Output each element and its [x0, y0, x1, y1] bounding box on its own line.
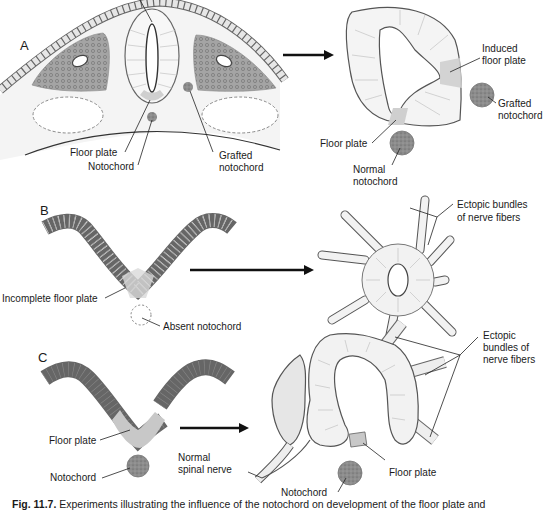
label-ectopic-b-1: Ectopic bundles	[457, 199, 528, 210]
panel-c-result: Normal spinal nerve Floor plate Notochor…	[178, 323, 535, 498]
neural-tube-c	[307, 334, 418, 447]
label-floor-plate-c: Floor plate	[49, 435, 97, 446]
label-induced-floor-plate-2: floor plate	[482, 55, 526, 66]
label-grafted-notochord-1: Grafted	[219, 150, 252, 161]
figure-caption: Fig. 11.7. Experiments illustrating the …	[12, 498, 542, 510]
notochord-c	[127, 455, 149, 477]
label-floor-plate: Floor plate	[70, 147, 118, 158]
label-induced-floor-plate-1: Induced	[482, 43, 518, 54]
label-ectopic-c-2: bundles of	[483, 342, 529, 353]
figure-number: Fig. 11.7.	[12, 498, 56, 510]
neural-canal	[146, 24, 158, 92]
right-coelom	[202, 97, 278, 133]
label-normal-spinal-nerve-1: Normal	[178, 452, 210, 463]
label-notochord-c-result: Notochord	[281, 487, 327, 498]
label-grafted-notochord-r1: Grafted	[498, 98, 531, 109]
notochord-c-result	[338, 461, 362, 485]
left-coelom	[33, 97, 103, 133]
panel-a-result: Induced floor plate Grafted notochord Fl…	[320, 7, 542, 187]
figure-canvas: A Floor plate Notochord Grafted notochor…	[0, 0, 546, 518]
label-ectopic-c-1: Ectopic	[483, 330, 516, 341]
grafted-notochord-result	[470, 83, 494, 107]
label-normal-notochord-1: Normal	[353, 164, 385, 175]
figure-caption-text: Experiments illustrating the influence o…	[59, 498, 485, 510]
label-floor-plate-c-result: Floor plate	[389, 467, 437, 478]
panel-label-c: C	[38, 350, 47, 365]
panel-b-neural-plate: B Incomplete floor plate Absent notochor…	[2, 203, 241, 332]
grafted-notochord	[183, 82, 193, 92]
panel-label-a: A	[20, 38, 29, 53]
label-normal-notochord-2: notochord	[353, 176, 397, 187]
label-grafted-notochord-2: notochord	[219, 162, 263, 173]
label-ectopic-b-2: of nerve fibers	[457, 212, 520, 223]
label-floor-plate-r: Floor plate	[320, 138, 368, 149]
panel-a-embryo-section: A Floor plate Notochord Grafted notochor…	[0, 0, 285, 173]
spinal-ganglion	[272, 355, 306, 445]
label-notochord: Notochord	[88, 161, 134, 172]
normal-notochord	[390, 131, 414, 155]
label-notochord-c: Notochord	[50, 472, 96, 483]
label-grafted-notochord-r2: notochord	[498, 110, 542, 121]
label-absent-notochord: Absent notochord	[163, 321, 241, 332]
label-normal-spinal-nerve-2: spinal nerve	[178, 464, 232, 475]
neural-canal-b	[388, 264, 408, 296]
panel-label-b: B	[40, 203, 49, 218]
absent-notochord	[131, 305, 151, 325]
label-ectopic-c-3: nerve fibers	[483, 354, 535, 365]
floor-plate-c-result	[349, 432, 367, 447]
panel-b-result: Ectopic bundles of nerve fibers	[322, 199, 528, 335]
induced-floor-plate-region	[440, 58, 462, 88]
label-incomplete-floor-plate: Incomplete floor plate	[2, 293, 98, 304]
